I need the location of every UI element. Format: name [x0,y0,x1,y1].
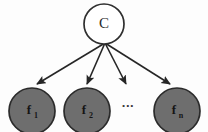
feature-node-subscript: 2 [89,111,93,120]
diagram-canvas: C f 1 f 2 ... f n [0,0,208,132]
edge-group [37,43,170,84]
feature-node-f2[interactable]: f 2 [64,88,110,132]
feature-node-circle [64,88,110,132]
feature-node-subscript: n [179,111,184,120]
feature-node-label: f [172,102,177,117]
class-node-label: C [99,15,109,31]
edge-c-to-f1 [37,43,105,84]
feature-node-circle [154,88,200,132]
feature-node-circle [9,88,55,132]
feature-node-subscript: 1 [34,111,38,120]
ellipsis-label: ... [122,95,134,110]
feature-node-fn[interactable]: f n [154,88,200,132]
feature-node-label: f [27,102,32,117]
feature-node-f1[interactable]: f 1 [9,88,55,132]
class-node-c[interactable]: C [84,4,124,44]
graph-svg: C f 1 f 2 ... f n [0,0,208,132]
feature-node-label: f [82,102,87,117]
